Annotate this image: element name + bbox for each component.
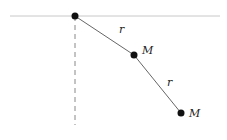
- mass-1-label: M: [141, 44, 154, 57]
- mass-2-label: M: [188, 107, 201, 120]
- mass-2-bob: [178, 110, 185, 117]
- pivot-point: [72, 13, 79, 20]
- rod-1-label: r: [119, 23, 125, 36]
- rod-1: [75, 16, 134, 55]
- rod-2-label: r: [167, 76, 173, 89]
- rod-2: [134, 55, 181, 113]
- mass-1-bob: [131, 52, 138, 59]
- double-pendulum-diagram: r r M M: [0, 0, 227, 140]
